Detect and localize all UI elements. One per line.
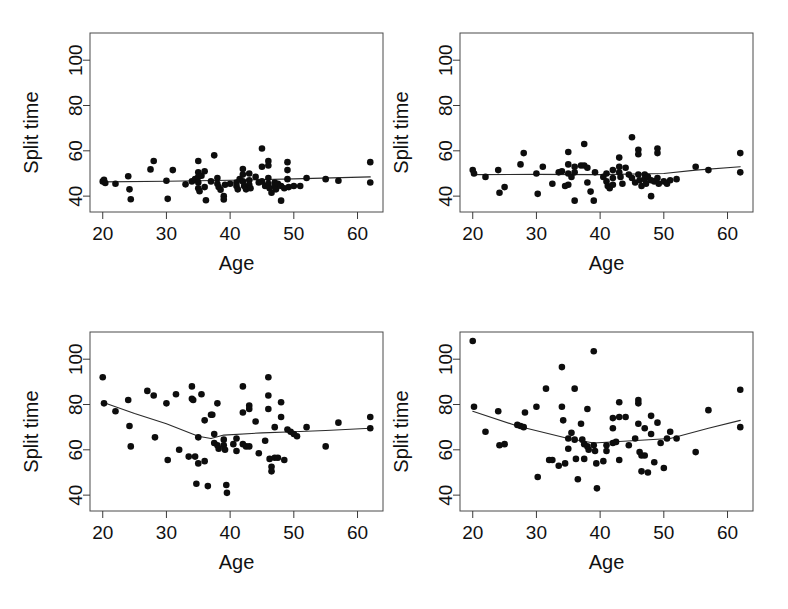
panel-top-right: 2030405060406080100AgeSplit time <box>370 0 770 300</box>
data-point <box>126 423 133 430</box>
data-point <box>581 141 588 148</box>
y-tick-label: 80 <box>436 394 457 415</box>
data-point <box>195 179 202 186</box>
x-tick-label: 50 <box>283 223 304 244</box>
y-tick-label: 40 <box>66 485 87 506</box>
data-point <box>613 439 620 446</box>
data-point <box>291 183 298 190</box>
data-point <box>265 392 272 399</box>
x-tick-label: 40 <box>220 522 241 543</box>
data-point <box>259 163 266 170</box>
x-axis-title: Age <box>219 252 255 274</box>
data-point <box>195 460 202 467</box>
y-tick-label: 80 <box>66 394 87 415</box>
data-point <box>616 154 623 161</box>
y-tick-label: 100 <box>436 343 457 375</box>
data-point <box>632 435 639 442</box>
data-point <box>565 435 572 442</box>
panel-top-left: 2030405060406080100AgeSplit time <box>0 0 400 300</box>
data-point <box>192 453 199 460</box>
data-point <box>189 383 196 390</box>
y-tick-label: 60 <box>66 140 87 161</box>
data-point <box>616 399 623 406</box>
data-point <box>560 417 567 424</box>
data-point <box>540 163 547 170</box>
data-points <box>469 338 743 492</box>
y-tick-label: 100 <box>66 343 87 375</box>
data-point <box>616 457 623 464</box>
data-point <box>571 197 578 204</box>
x-tick-label: 50 <box>653 522 674 543</box>
data-point <box>127 443 134 450</box>
data-point <box>223 482 230 489</box>
data-point <box>240 383 247 390</box>
data-point <box>214 175 221 182</box>
data-point <box>246 170 253 177</box>
data-point <box>622 165 629 172</box>
data-point <box>648 193 655 200</box>
data-point <box>265 162 272 169</box>
data-point <box>571 169 578 176</box>
data-point <box>581 456 588 463</box>
data-point <box>534 191 541 198</box>
data-point <box>648 413 655 420</box>
data-point <box>565 149 572 156</box>
data-point <box>495 408 502 415</box>
data-point <box>265 175 272 182</box>
data-point <box>208 178 215 185</box>
data-point <box>211 431 218 438</box>
data-point <box>240 166 247 173</box>
data-point <box>255 450 262 457</box>
data-point <box>176 447 183 454</box>
data-point <box>247 185 254 192</box>
data-point <box>220 436 227 443</box>
x-tick-label: 30 <box>156 223 177 244</box>
y-axis-title: Split time <box>20 390 42 472</box>
data-point <box>592 448 599 455</box>
data-point <box>234 186 241 193</box>
data-point <box>268 468 275 475</box>
data-point <box>185 453 192 460</box>
data-point <box>517 161 524 168</box>
data-point <box>629 134 636 141</box>
data-point <box>571 385 578 392</box>
data-point <box>737 386 744 393</box>
data-point <box>600 458 607 465</box>
data-point <box>562 460 569 467</box>
y-axis-title: Split time <box>390 91 412 173</box>
data-points <box>99 374 373 496</box>
data-point <box>495 167 502 174</box>
data-point <box>125 173 132 180</box>
x-tick-label: 30 <box>156 522 177 543</box>
data-point <box>240 409 247 416</box>
y-tick-label: 40 <box>436 186 457 207</box>
data-point <box>496 189 503 196</box>
data-point <box>284 167 291 174</box>
data-point <box>610 182 617 189</box>
data-point <box>635 151 642 158</box>
data-point <box>559 364 566 371</box>
data-point <box>482 174 489 181</box>
data-point <box>150 392 157 399</box>
data-point <box>125 397 132 404</box>
data-point <box>182 181 189 188</box>
data-point <box>590 197 597 204</box>
data-point <box>635 171 642 178</box>
figure-container: 2030405060406080100AgeSplit time20304050… <box>0 0 788 609</box>
data-point <box>246 406 253 413</box>
data-point <box>603 170 610 177</box>
data-point <box>303 175 310 182</box>
data-point <box>648 431 655 438</box>
data-point <box>654 419 661 426</box>
data-point <box>635 400 642 407</box>
data-point <box>673 176 680 183</box>
data-point <box>214 400 221 407</box>
data-point <box>101 400 108 407</box>
data-point <box>575 476 582 483</box>
data-point <box>578 420 585 427</box>
data-point <box>147 166 154 173</box>
data-point <box>271 424 278 431</box>
data-point <box>259 145 266 152</box>
data-point <box>610 167 617 174</box>
data-point <box>205 483 212 490</box>
